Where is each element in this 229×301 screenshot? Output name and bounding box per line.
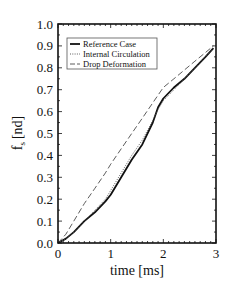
legend-label-internal-circulation: Internal Circulation bbox=[83, 49, 151, 59]
x-tick-label: 1 bbox=[107, 246, 114, 261]
x-axis-label: time [ms] bbox=[110, 263, 164, 278]
legend: Reference Case Internal Circulation Drop… bbox=[67, 38, 157, 69]
line-chart: 0.00.10.20.30.40.50.60.70.80.91.0 0123 t… bbox=[0, 0, 229, 301]
y-axis-tick-labels: 0.00.10.20.30.40.50.60.70.80.91.0 bbox=[37, 17, 54, 251]
x-tick-label: 0 bbox=[55, 246, 62, 261]
plot-area bbox=[58, 46, 213, 243]
series-line-internal-circulation bbox=[58, 48, 213, 243]
y-axis-label-subscript: s bbox=[17, 142, 27, 146]
y-tick-label: 0.2 bbox=[37, 192, 53, 207]
x-axis-tick-labels: 0123 bbox=[55, 246, 220, 261]
y-tick-label: 0.5 bbox=[37, 126, 53, 141]
y-tick-label: 0.7 bbox=[37, 82, 54, 97]
x-tick-label: 2 bbox=[160, 246, 167, 261]
y-tick-label: 0.6 bbox=[37, 104, 54, 119]
y-tick-label: 0.9 bbox=[37, 38, 53, 53]
y-tick-label: 0.0 bbox=[37, 236, 53, 251]
legend-label-drop-deformation: Drop Deformation bbox=[83, 59, 147, 69]
series-line-reference-case bbox=[58, 48, 213, 243]
y-tick-label: 1.0 bbox=[37, 17, 53, 32]
y-axis-label-unit: [nd] bbox=[10, 116, 25, 139]
y-tick-label: 0.3 bbox=[37, 170, 53, 185]
y-tick-label: 0.8 bbox=[37, 60, 53, 75]
legend-label-reference: Reference Case bbox=[83, 39, 136, 49]
y-tick-label: 0.4 bbox=[37, 148, 54, 163]
svg-text:fs[nd]: fs[nd] bbox=[10, 116, 27, 151]
y-axis-label: fs[nd] bbox=[10, 116, 27, 151]
y-tick-label: 0.1 bbox=[37, 214, 53, 229]
x-tick-label: 3 bbox=[213, 246, 220, 261]
series-line-drop-deformation bbox=[58, 46, 213, 243]
